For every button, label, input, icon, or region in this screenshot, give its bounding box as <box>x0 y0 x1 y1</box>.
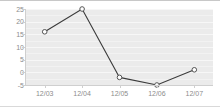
y-axis-tick-mark <box>22 47 25 48</box>
data-point-marker <box>80 7 85 12</box>
x-axis-labels: 12/0312/0412/0512/0612/07 <box>26 89 213 101</box>
data-point-marker <box>192 68 197 73</box>
x-axis-tick-mark <box>157 85 158 88</box>
x-axis-tick-mark <box>120 85 121 88</box>
y-axis-tick-label: 5 <box>0 56 24 63</box>
series-plot <box>26 9 213 85</box>
x-axis-tick-mark <box>194 85 195 88</box>
data-point-marker <box>42 30 47 35</box>
x-axis-tick-label: 12/06 <box>140 89 174 98</box>
x-axis-tick-mark <box>45 85 46 88</box>
x-axis-tick-mark <box>82 85 83 88</box>
y-axis-tick-mark <box>22 85 25 86</box>
y-axis-tick-label: -5 <box>0 82 24 89</box>
x-axis-tick-label: 12/05 <box>103 89 137 98</box>
y-axis-tick-mark <box>22 9 25 10</box>
bottom-divider <box>0 106 220 107</box>
y-axis-tick-label: 0 <box>0 69 24 76</box>
y-axis-tick-mark <box>22 72 25 73</box>
y-axis-tick-mark <box>22 22 25 23</box>
plot-area <box>26 9 213 85</box>
y-axis-tick-label: 20 <box>0 18 24 25</box>
y-axis-labels: 2520151050-5 <box>0 9 24 85</box>
y-axis-tick-mark <box>22 34 25 35</box>
y-axis-tick-label: 25 <box>0 6 24 13</box>
data-point-marker <box>117 75 122 80</box>
y-axis-tick-label: 15 <box>0 31 24 38</box>
x-axis-tick-label: 12/04 <box>65 89 99 98</box>
x-axis-tick-label: 12/03 <box>28 89 62 98</box>
series-line <box>45 9 195 85</box>
y-axis-line <box>25 9 26 86</box>
x-axis-tick-label: 12/07 <box>177 89 211 98</box>
top-divider <box>0 0 220 1</box>
y-axis-tick-label: 10 <box>0 44 24 51</box>
line-chart-widget: 2520151050-5 12/0312/0412/0512/0612/07 <box>0 0 220 107</box>
y-axis-tick-mark <box>22 60 25 61</box>
